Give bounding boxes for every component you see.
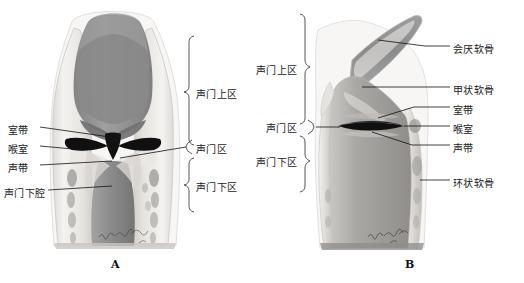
panel-a-drawing: [50, 12, 179, 250]
label-b-subglottic-region: 声门下区: [256, 154, 297, 169]
label-b-thyroid-cartilage: 甲状软骨: [453, 82, 494, 97]
panel-b-drawing: [315, 15, 428, 250]
label-a-subglottic-cavity: 声门下腔: [4, 185, 45, 200]
label-a-laryngeal-ventricle: 喉室: [8, 141, 29, 156]
label-b-ventricular-fold: 室带: [453, 102, 474, 117]
panel-a-braces: [184, 36, 194, 212]
anatomy-illustration: [0, 0, 524, 283]
label-a-subglottic-region: 声门下区: [196, 179, 237, 194]
figure-canvas: 室带 喉室 声带 声门下腔 声门上区 声门区 声门下区 A 声门上区 声门区 声…: [0, 0, 524, 283]
label-b-epiglottic-cartilage: 会厌软骨: [453, 41, 494, 56]
label-b-glottic-region: 声门区: [266, 120, 297, 135]
label-b-cricoid-cartilage: 环状软骨: [453, 175, 494, 190]
label-a-glottic-region: 声门区: [196, 141, 227, 156]
label-b-vocal-cord: 声带: [453, 140, 474, 155]
label-b-supraglottic-region: 声门上区: [256, 62, 297, 77]
label-b-laryngeal-ventricle: 喉室: [453, 121, 474, 136]
label-a-supraglottic-region: 声门上区: [196, 86, 237, 101]
label-a-vocal-cord: 声带: [8, 160, 29, 175]
panel-letter-b: B: [405, 258, 414, 271]
panel-b-braces: [300, 14, 314, 192]
panel-letter-a: A: [111, 258, 120, 271]
label-a-ventricular-fold: 室带: [8, 122, 29, 137]
